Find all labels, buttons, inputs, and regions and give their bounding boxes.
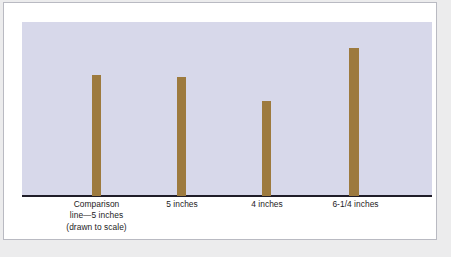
bar-label-5-inches: 5 inches (141, 199, 223, 210)
bar-label-6-1-4-inches: 6-1/4 inches (309, 199, 402, 210)
bar-5-inches (177, 77, 186, 196)
bar-label-4-inches: 4 inches (226, 199, 308, 210)
figure-root: Comparison line—5 inches (drawn to scale… (0, 0, 451, 257)
figure-frame: Comparison line—5 inches (drawn to scale… (3, 2, 437, 240)
x-axis-labels: Comparison line—5 inches (drawn to scale… (4, 199, 451, 257)
bar-label-comparison-line: Comparison line—5 inches (drawn to scale… (40, 199, 153, 233)
bar-comparison-line (92, 75, 101, 196)
bar-4-inches (262, 101, 271, 196)
bar-6-1-4-inches (349, 48, 359, 196)
